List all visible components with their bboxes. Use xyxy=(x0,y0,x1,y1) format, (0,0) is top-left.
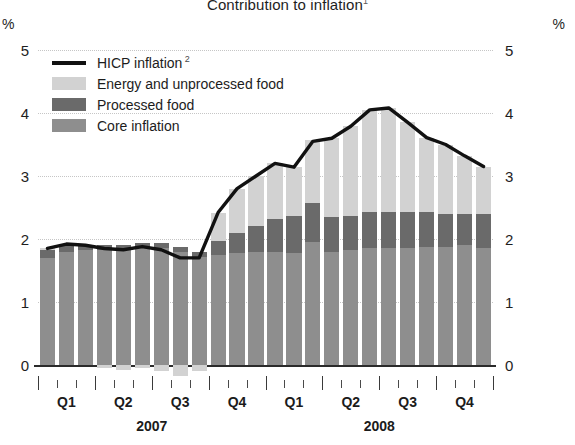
bar-segment xyxy=(248,226,263,251)
bar-column xyxy=(381,50,396,365)
bar-segment xyxy=(135,365,150,368)
x-axis-minor-tick xyxy=(133,380,134,388)
bar-segment xyxy=(248,252,263,365)
y-axis-tick-label: 2 xyxy=(505,232,513,247)
chart-figure: Contribution to inflation1 % % 012345 01… xyxy=(0,0,575,445)
x-axis-minor-tick xyxy=(247,380,248,388)
legend-swatch-processed xyxy=(52,98,86,111)
x-axis-quarter-label: Q2 xyxy=(114,394,133,410)
y-axis-unit-right: % xyxy=(553,16,565,32)
legend-item: Core inflation xyxy=(52,115,302,136)
bar-segment xyxy=(362,248,377,365)
x-axis-major-tick xyxy=(152,376,153,390)
bar-segment xyxy=(381,248,396,365)
x-axis-major-tick xyxy=(209,376,210,390)
bar-segment xyxy=(400,122,415,211)
bar-segment xyxy=(211,241,226,255)
x-axis-minor-tick xyxy=(228,380,229,388)
x-axis-year-label: 2007 xyxy=(136,418,167,434)
bar-segment xyxy=(154,248,169,365)
y-axis-tick-label: 0 xyxy=(21,358,29,373)
bar-segment xyxy=(286,253,301,365)
legend-label-footnote: 2 xyxy=(182,54,190,64)
x-axis-minor-tick xyxy=(398,380,399,388)
bar-segment xyxy=(362,110,377,212)
bar-segment xyxy=(457,214,472,246)
bar-segment xyxy=(78,245,93,250)
y-axis-tick-label: 4 xyxy=(21,106,29,121)
x-axis-minor-tick xyxy=(114,380,115,388)
legend-label: Core inflation xyxy=(97,118,180,134)
bar-segment xyxy=(438,145,453,214)
bar-segment xyxy=(343,250,358,365)
x-axis: Q1Q2Q3Q4Q1Q2Q3Q420072008 xyxy=(38,376,493,442)
x-axis-minor-tick xyxy=(284,380,285,388)
legend-item: Processed food xyxy=(52,94,302,115)
bar-column xyxy=(343,50,358,365)
bar-segment xyxy=(343,216,358,251)
x-axis-minor-tick xyxy=(303,380,304,388)
bar-segment xyxy=(324,252,339,365)
bar-column xyxy=(400,50,415,365)
x-axis-major-tick xyxy=(379,376,380,390)
x-axis-major-tick xyxy=(322,376,323,390)
bar-column xyxy=(476,50,491,365)
y-axis-unit-left: % xyxy=(2,16,14,32)
legend-item: Energy and unprocessed food xyxy=(52,73,302,94)
x-axis-year-label: 2008 xyxy=(364,418,395,434)
bar-segment xyxy=(324,217,339,252)
bar-segment xyxy=(116,250,131,365)
bar-segment xyxy=(40,250,55,258)
x-axis-minor-tick xyxy=(417,380,418,388)
x-axis-minor-tick xyxy=(190,380,191,388)
bar-segment xyxy=(229,253,244,365)
bar-segment xyxy=(59,244,74,245)
x-axis-major-tick xyxy=(95,376,96,390)
bar-segment xyxy=(97,250,112,365)
bar-segment xyxy=(419,212,434,247)
x-axis-quarter-label: Q1 xyxy=(285,394,304,410)
bar-column xyxy=(438,50,453,365)
legend-label: Processed food xyxy=(97,97,194,113)
x-axis-major-tick xyxy=(266,376,267,390)
bar-segment xyxy=(476,167,491,214)
x-axis-minor-tick xyxy=(341,380,342,388)
legend-item: HICP inflation 2 xyxy=(52,52,302,73)
y-axis-tick-label: 0 xyxy=(505,358,513,373)
x-axis-quarter-label: Q4 xyxy=(228,394,247,410)
x-axis-major-tick xyxy=(436,376,437,390)
bar-column xyxy=(324,50,339,365)
y-axis-tick-label: 5 xyxy=(21,43,29,58)
x-axis-quarter-label: Q4 xyxy=(455,394,474,410)
y-axis-tick-label: 1 xyxy=(21,295,29,310)
bar-column xyxy=(362,50,377,365)
bar-segment xyxy=(40,248,55,250)
bar-segment xyxy=(457,156,472,214)
bar-segment xyxy=(400,212,415,249)
x-axis-major-tick xyxy=(493,376,494,390)
bar-segment xyxy=(381,212,396,249)
x-axis-quarter-label: Q2 xyxy=(341,394,360,410)
bar-segment xyxy=(40,258,55,365)
y-axis-tick-label: 1 xyxy=(505,295,513,310)
x-axis-major-tick xyxy=(38,376,39,390)
bar-segment xyxy=(476,214,491,249)
y-axis-tick-label: 4 xyxy=(505,106,513,121)
x-axis-minor-tick xyxy=(57,380,58,388)
bar-segment xyxy=(267,219,282,252)
bar-segment xyxy=(211,213,226,241)
bar-column xyxy=(305,50,320,365)
bar-segment xyxy=(343,126,358,215)
legend-swatch-energy xyxy=(52,77,86,90)
bar-segment xyxy=(97,245,112,250)
bar-segment xyxy=(381,108,396,212)
bar-segment xyxy=(135,243,150,248)
bar-segment xyxy=(154,243,169,248)
x-axis-quarter-label: Q3 xyxy=(398,394,417,410)
bar-segment xyxy=(192,365,207,371)
bar-segment xyxy=(476,248,491,365)
bar-segment xyxy=(192,252,207,257)
chart-title-text: Contribution to inflation xyxy=(207,0,363,13)
bar-column xyxy=(419,50,434,365)
bar-segment xyxy=(305,140,320,203)
